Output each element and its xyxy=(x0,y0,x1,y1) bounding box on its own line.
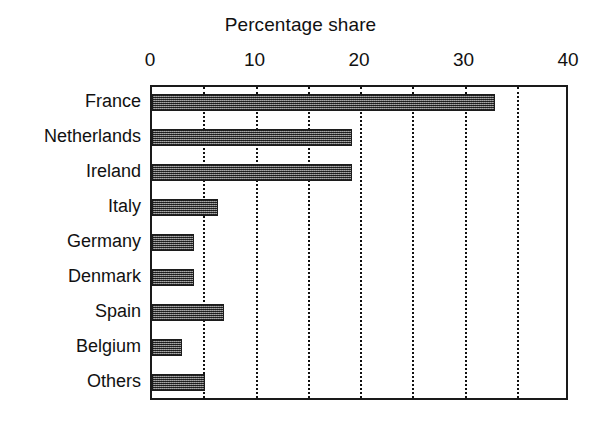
category-label: Germany xyxy=(0,231,141,251)
x-tick-label: 40 xyxy=(538,49,598,71)
bar xyxy=(152,129,352,146)
x-tick-label: 10 xyxy=(225,49,285,71)
category-axis-labels: FranceNetherlandsIrelandItalyGermanyDenm… xyxy=(0,85,145,400)
x-tick-label: 30 xyxy=(434,49,494,71)
bar xyxy=(152,94,495,111)
chart-title: Percentage share xyxy=(0,14,601,36)
plot-inner xyxy=(152,87,566,398)
category-label: France xyxy=(0,91,141,111)
category-label: Ireland xyxy=(0,161,141,181)
x-tick-label: 0 xyxy=(120,49,180,71)
category-label: Others xyxy=(0,371,141,391)
category-label: Spain xyxy=(0,301,141,321)
bar xyxy=(152,339,182,356)
bar xyxy=(152,234,194,251)
bar xyxy=(152,164,352,181)
bars xyxy=(152,87,566,398)
category-label: Denmark xyxy=(0,266,141,286)
bar xyxy=(152,304,224,321)
category-label: Belgium xyxy=(0,336,141,356)
plot-area xyxy=(150,85,568,400)
x-tick-label: 20 xyxy=(329,49,389,71)
bar-chart: Percentage share 010203040 FranceNetherl… xyxy=(0,0,601,425)
category-label: Netherlands xyxy=(0,126,141,146)
bar xyxy=(152,374,205,391)
bar xyxy=(152,199,218,216)
bar xyxy=(152,269,194,286)
x-axis-tick-labels: 010203040 xyxy=(0,49,601,75)
category-label: Italy xyxy=(0,196,141,216)
